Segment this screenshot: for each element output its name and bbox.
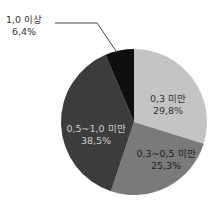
slice-value: 6,4% xyxy=(12,26,36,37)
callout-line-diagonal xyxy=(97,23,116,51)
slice-value: 29,8% xyxy=(153,105,183,116)
slice-label: 1,0 이상 xyxy=(6,14,42,25)
slice-value: 38,5% xyxy=(81,135,111,146)
pie-chart: 0,3 미만29,8%0,3~0,5 미만25,3%0,5~1,0 미만38,5… xyxy=(0,0,222,213)
slice-label: 0,3~0,5 미만 xyxy=(136,148,195,159)
slice-label: 0,3 미만 xyxy=(150,93,186,104)
slice-value: 25,3% xyxy=(151,160,181,171)
slice-label: 0,5~1,0 미만 xyxy=(66,123,125,134)
